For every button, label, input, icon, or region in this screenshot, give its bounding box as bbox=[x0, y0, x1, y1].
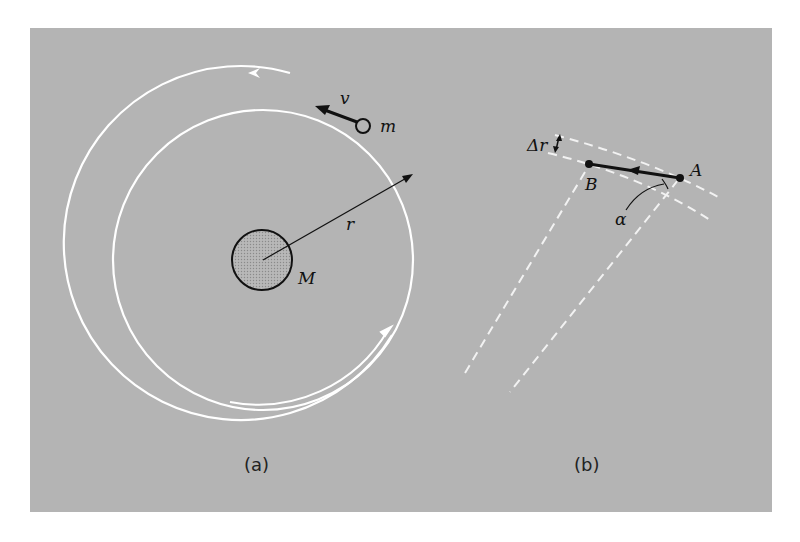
small-mass-m bbox=[356, 119, 370, 133]
chord-arrowhead-icon bbox=[627, 166, 640, 175]
inner-direction-arc bbox=[230, 330, 388, 405]
caption-a: (a) bbox=[244, 454, 269, 475]
radial-dashed-line-a bbox=[510, 180, 678, 392]
label-A: A bbox=[688, 160, 702, 180]
label-m: m bbox=[380, 116, 396, 136]
panel-a: v m r M (a) bbox=[64, 66, 413, 475]
label-alpha: α bbox=[615, 209, 627, 229]
arrowhead-top-icon bbox=[248, 68, 260, 78]
label-v: v bbox=[340, 88, 350, 108]
point-A bbox=[676, 174, 684, 182]
radius-line bbox=[263, 176, 410, 260]
orbit-diagram: v m r M (a) Δr A B α (b) bbox=[0, 0, 800, 542]
panel-b: Δr A B α (b) bbox=[462, 134, 720, 475]
central-mass-M bbox=[232, 230, 292, 290]
caption-b: (b) bbox=[574, 454, 599, 475]
velocity-arrow bbox=[322, 109, 357, 122]
arrowhead-bottom-icon bbox=[381, 327, 391, 336]
delta-r-arrowhead-down-icon bbox=[553, 146, 559, 153]
radius-arrowhead-icon bbox=[402, 174, 413, 183]
label-M: M bbox=[297, 268, 316, 288]
inner-dashed-arc bbox=[548, 153, 710, 220]
label-B: B bbox=[584, 174, 598, 194]
point-B bbox=[585, 160, 593, 168]
label-delta-r: Δr bbox=[526, 135, 548, 155]
radial-dashed-line-b bbox=[462, 172, 585, 378]
label-r: r bbox=[346, 214, 355, 234]
